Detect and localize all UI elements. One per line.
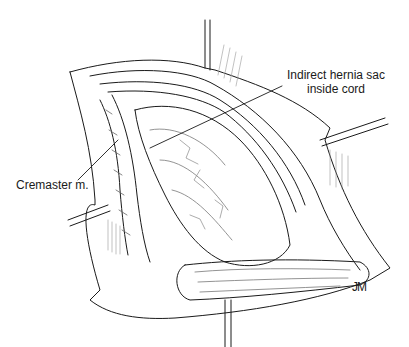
hernia-surgical-illustration bbox=[0, 0, 409, 347]
spermatic-cord bbox=[135, 106, 290, 265]
lower-band bbox=[177, 260, 369, 300]
leader-cremaster bbox=[78, 140, 118, 180]
hernia-sac-label-line2: inside cord bbox=[268, 82, 404, 96]
hernia-sac-label-line1: Indirect hernia sac bbox=[268, 68, 404, 82]
retractor-bottom bbox=[225, 300, 231, 347]
cremaster-label: Cremaster m. bbox=[16, 178, 89, 192]
retractor-top bbox=[205, 20, 210, 70]
artist-signature: JM bbox=[352, 280, 366, 294]
retractor-left bbox=[68, 205, 110, 226]
hernia-sac-label: Indirect hernia sac inside cord bbox=[268, 68, 404, 96]
upper-flap bbox=[90, 70, 360, 270]
retractor-right bbox=[320, 118, 388, 146]
leader-hernia-sac bbox=[150, 86, 282, 148]
